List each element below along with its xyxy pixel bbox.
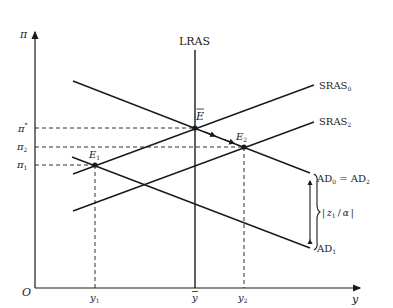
tick-y2: y2: [237, 292, 248, 304]
e-bar-label: E: [195, 110, 204, 123]
ad-as-diagram: π y O π* π2 π1 y1 y y2 LRAS SRAS0 SRAS2 …: [0, 0, 393, 308]
equilibrium-points: [92, 125, 246, 167]
origin-label: O: [22, 286, 31, 299]
curves: [72, 50, 314, 288]
lras-label: LRAS: [179, 35, 210, 48]
e1-point: [92, 162, 97, 167]
adjust-arrow-1: [205, 132, 215, 136]
tick-pi2: π2: [16, 141, 28, 153]
e1-label: E1: [88, 149, 100, 161]
e2-point: [241, 144, 246, 149]
guide-lines: [35, 128, 244, 288]
y-axis-label: π: [19, 28, 28, 41]
ad1-label: AD1: [316, 243, 336, 255]
tick-pi1: π1: [16, 159, 27, 171]
shift-annotation: |z1/α|: [322, 208, 354, 219]
sras0-label: SRAS0: [319, 80, 351, 92]
axes: [35, 32, 360, 288]
e-bar-point: [192, 125, 197, 130]
sras2-label: SRAS2: [319, 116, 351, 128]
ad-shift-indicator: [310, 174, 320, 250]
ad1-line: [72, 157, 310, 248]
tick-pi-star: π*: [17, 121, 28, 134]
ad0-ad2-line: [73, 81, 310, 173]
tick-y1: y1: [89, 292, 99, 304]
e2-label: E2: [235, 131, 247, 143]
shift-brace: [314, 174, 320, 250]
adjust-arrow-2: [224, 140, 234, 144]
ad0-ad2-label: AD0 = AD2: [316, 173, 370, 185]
sras2-line: [73, 122, 314, 211]
x-axis-label: y: [351, 293, 359, 306]
tick-y-bar: y: [191, 292, 198, 303]
